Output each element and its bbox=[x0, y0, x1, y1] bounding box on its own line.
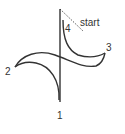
label-point-4: 4 bbox=[65, 23, 71, 34]
label-point-1: 1 bbox=[57, 110, 63, 121]
label-point-2: 2 bbox=[5, 66, 11, 77]
label-point-3: 3 bbox=[106, 42, 112, 53]
stroke-order-diagram: start 4 3 2 1 bbox=[0, 0, 125, 134]
label-start: start bbox=[80, 17, 100, 28]
stroke-to-point-2 bbox=[15, 62, 59, 100]
